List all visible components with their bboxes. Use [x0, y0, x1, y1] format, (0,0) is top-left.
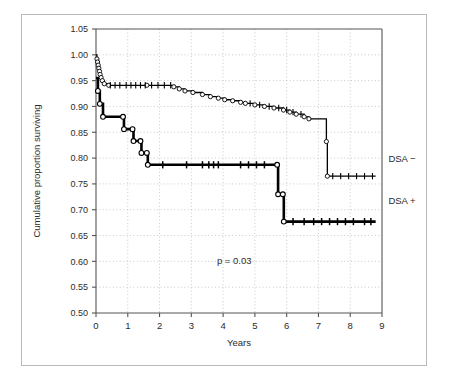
legend-label-dsa-negative: DSA − [388, 153, 416, 164]
event-marker-dsa-negative [243, 101, 247, 105]
event-marker-dsa-positive [139, 151, 144, 156]
y-tick-label: 0.90 [70, 102, 88, 112]
y-tick-label: 0.95 [70, 76, 88, 86]
legend-label-dsa-positive: DSA + [388, 195, 416, 206]
event-marker-dsa-negative [325, 174, 329, 178]
event-marker-dsa-negative [216, 96, 220, 100]
event-marker-dsa-positive [138, 139, 143, 144]
event-marker-dsa-positive [121, 114, 126, 119]
x-tick-label: 3 [189, 320, 194, 331]
figure-container: 0.500.550.600.650.700.750.800.850.900.95… [0, 0, 450, 382]
curve-dsa-positive [96, 78, 376, 222]
event-marker-dsa-negative [191, 90, 195, 94]
chart-plot-area: 0.500.550.600.650.700.750.800.850.900.95… [0, 0, 450, 382]
event-marker-dsa-negative [177, 87, 181, 91]
event-marker-dsa-negative [238, 100, 242, 104]
event-marker-dsa-positive [130, 127, 135, 132]
event-marker-dsa-negative [288, 110, 292, 114]
event-marker-dsa-positive [281, 219, 286, 224]
x-axis-title: Years [227, 337, 251, 348]
event-marker-dsa-positive [97, 101, 102, 106]
x-tick-label: 7 [316, 320, 321, 331]
x-tick-label: 0 [93, 320, 98, 331]
event-marker-dsa-positive [280, 192, 285, 197]
y-tick-label: 0.80 [70, 153, 88, 163]
x-tick-label: 8 [348, 320, 353, 331]
event-marker-dsa-negative [223, 98, 227, 102]
event-marker-dsa-positive [275, 162, 280, 167]
x-tick-label: 6 [284, 320, 289, 331]
event-marker-dsa-positive [131, 139, 136, 144]
x-tick-label: 9 [379, 320, 384, 331]
y-tick-label: 0.70 [70, 205, 88, 215]
y-tick-label: 0.65 [70, 231, 88, 241]
y-tick-label: 0.55 [70, 282, 88, 292]
event-marker-dsa-positive [96, 89, 101, 94]
x-tick-label: 5 [252, 320, 257, 331]
event-marker-dsa-positive [101, 114, 106, 119]
event-marker-dsa-positive [122, 127, 127, 132]
event-marker-dsa-negative [307, 117, 311, 121]
y-tick-label: 0.60 [70, 257, 88, 267]
y-tick-label: 0.75 [70, 179, 88, 189]
event-marker-dsa-negative [281, 108, 285, 112]
event-marker-dsa-negative [253, 103, 257, 107]
event-marker-dsa-negative [262, 104, 266, 108]
y-tick-label: 0.85 [70, 128, 88, 138]
event-marker-dsa-positive [145, 162, 150, 167]
event-marker-dsa-negative [172, 85, 176, 89]
event-marker-dsa-negative [231, 99, 235, 103]
x-tick-label: 4 [220, 320, 225, 331]
p-value-annotation: p = 0.03 [217, 255, 252, 266]
event-marker-dsa-negative [200, 92, 204, 96]
event-marker-dsa-negative [324, 139, 328, 143]
event-marker-dsa-negative [302, 115, 306, 119]
event-marker-dsa-positive [144, 151, 149, 156]
x-tick-label: 1 [125, 320, 130, 331]
event-marker-dsa-positive [276, 192, 281, 197]
y-tick-label: 0.50 [70, 308, 88, 318]
event-marker-dsa-negative [294, 112, 298, 116]
event-marker-dsa-negative [272, 106, 276, 110]
event-marker-dsa-negative [208, 95, 212, 99]
survival-chart-svg: 0.500.550.600.650.700.750.800.850.900.95… [0, 0, 450, 382]
x-tick-label: 2 [157, 320, 162, 331]
y-axis-title: Cumulative proportion surviving [31, 104, 42, 237]
event-marker-dsa-negative [102, 82, 106, 86]
event-marker-dsa-negative [183, 89, 187, 93]
y-tick-label: 1.05 [70, 24, 88, 34]
y-tick-label: 1.00 [70, 50, 88, 60]
